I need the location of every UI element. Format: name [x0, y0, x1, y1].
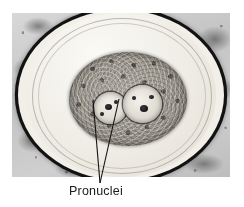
pronucleus-left [94, 92, 127, 124]
nucleolus [100, 112, 104, 116]
nucleolus [149, 95, 154, 99]
micrograph-image [12, 13, 230, 177]
cytoplasm-ooplasm [69, 52, 187, 146]
nucleolus [140, 105, 148, 112]
caption-label-pronuclei: Pronuclei [69, 184, 123, 198]
nucleolus [114, 100, 118, 104]
nucleolus [132, 96, 136, 100]
zona-pellucida [18, 13, 224, 177]
nucleolus [105, 104, 112, 110]
figure-micrograph-zygote-pronuclei: Pronuclei [0, 0, 244, 207]
pronucleus-right [123, 85, 162, 123]
